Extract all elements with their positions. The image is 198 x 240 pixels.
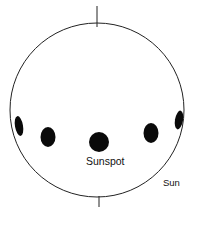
sun-label: Sun [163,177,180,188]
sunspot-3 [89,132,109,152]
sun-disk [10,23,184,197]
sunspot-label: Sunspot [86,155,125,167]
sunspot-2 [41,127,56,147]
sunspot-4 [144,123,159,143]
